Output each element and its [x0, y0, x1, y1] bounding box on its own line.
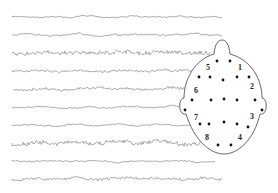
electrode-dot [261, 109, 264, 112]
electrode-dot [191, 99, 194, 102]
electrode-region-label: 6 [194, 86, 198, 95]
electrode-dot [248, 76, 251, 79]
electrode-dot [184, 109, 187, 112]
eeg-trace [12, 15, 222, 18]
scalp-electrode-map: 51627384 [180, 40, 267, 154]
electrode-dot [222, 79, 225, 82]
electrode-dot [247, 126, 250, 129]
electrode-dot [216, 60, 219, 63]
eeg-trace [14, 86, 185, 91]
electrode-dot [217, 144, 220, 147]
electrode-dot [209, 76, 212, 79]
electrode-dot [199, 123, 202, 126]
electrode-dot [229, 60, 232, 63]
electrode-dot [223, 98, 226, 101]
eeg-trace [12, 50, 210, 56]
eeg-trace [12, 176, 222, 181]
electrode-dot [236, 99, 239, 102]
eeg-trace [12, 105, 180, 109]
eeg-trace [12, 69, 195, 74]
electrode-dot [236, 123, 239, 126]
electrode-region-label: 3 [250, 112, 254, 121]
electrode-region-label: 2 [250, 82, 254, 91]
electrode-region-label: 5 [206, 63, 210, 72]
eeg-trace [12, 139, 200, 146]
electrode-region-label: 4 [238, 133, 242, 142]
electrode-dot [208, 123, 211, 126]
electrode-region-label: 8 [205, 133, 209, 142]
eeg-trace [12, 124, 190, 127]
electrode-dot [230, 144, 233, 147]
electrode-region-label: 1 [238, 63, 242, 72]
electrode-dot [210, 99, 213, 102]
electrode-dot [223, 121, 226, 124]
eeg-trace [12, 160, 215, 163]
electrode-region-label: 7 [194, 113, 198, 122]
eeg-figure: 51627384 [0, 0, 278, 193]
electrode-dot [254, 99, 257, 102]
head-outline [180, 40, 267, 154]
eeg-trace [12, 33, 222, 37]
electrode-dot [236, 76, 239, 79]
electrode-dot [198, 76, 201, 79]
